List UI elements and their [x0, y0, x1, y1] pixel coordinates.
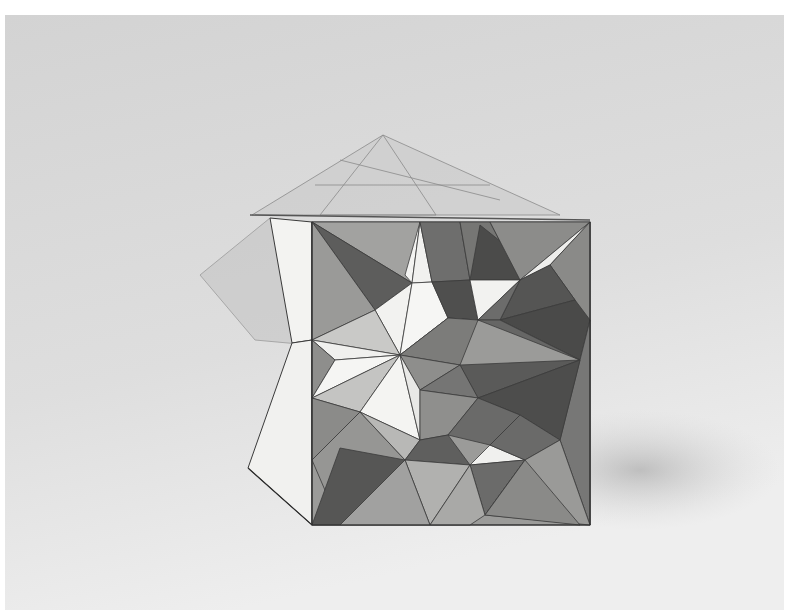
sculpture-photo: Grayscale photograph of a paper/card cub… — [5, 15, 784, 610]
front-facets — [312, 222, 590, 525]
sculpture-drawing — [5, 15, 784, 610]
